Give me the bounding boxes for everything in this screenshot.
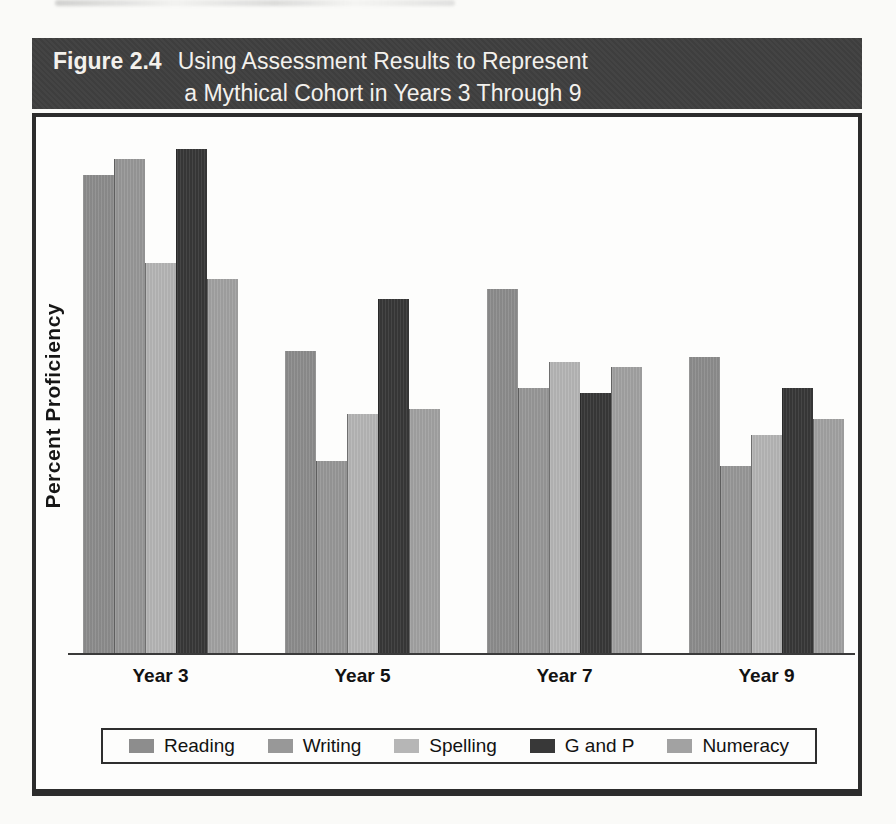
bar-group-year-3 bbox=[83, 133, 238, 653]
bar-spelling-year-7 bbox=[549, 362, 580, 653]
legend-item-spelling: Spelling bbox=[394, 735, 497, 757]
figure-2-4: Figure 2.4 Using Assessment Results to R… bbox=[32, 38, 862, 796]
bar-writing-year-7 bbox=[518, 388, 549, 653]
bar-writing-year-9 bbox=[720, 466, 751, 653]
figure-number-label: Figure 2.4 bbox=[53, 45, 162, 77]
bar-reading-year-3 bbox=[83, 175, 114, 653]
bar-numeracy-year-5 bbox=[409, 409, 440, 653]
legend-label-spelling: Spelling bbox=[429, 735, 497, 757]
plot-area bbox=[68, 133, 855, 653]
bar-group-year-7 bbox=[487, 133, 642, 653]
bar-writing-year-3 bbox=[114, 159, 145, 653]
bar-groups bbox=[68, 133, 855, 653]
legend-item-g-and-p: G and P bbox=[530, 735, 635, 757]
bar-reading-year-9 bbox=[689, 357, 720, 653]
bar-group-year-5 bbox=[285, 133, 440, 653]
figure-title: Using Assessment Results to Represent a … bbox=[178, 45, 588, 109]
y-axis-title: Percent Proficiency bbox=[41, 303, 65, 509]
legend-item-numeracy: Numeracy bbox=[667, 735, 789, 757]
bar-reading-year-5 bbox=[285, 351, 316, 653]
legend-swatch-numeracy bbox=[667, 739, 692, 753]
x-axis-label-year-9: Year 9 bbox=[689, 665, 844, 687]
bar-numeracy-year-3 bbox=[207, 279, 238, 653]
bar-g-and-p-year-9 bbox=[782, 388, 813, 653]
legend-swatch-writing bbox=[268, 739, 293, 753]
chart-legend: ReadingWritingSpellingG and PNumeracy bbox=[101, 728, 817, 764]
legend-swatch-spelling bbox=[394, 739, 419, 753]
plot-region: Year 3Year 5Year 7Year 9 bbox=[68, 133, 855, 687]
chart-box: Percent Proficiency Year 3Year 5Year 7Ye… bbox=[32, 113, 862, 796]
legend-swatch-reading bbox=[129, 739, 154, 753]
bar-group-year-9 bbox=[689, 133, 844, 653]
bar-g-and-p-year-7 bbox=[580, 393, 611, 653]
x-axis-label-year-7: Year 7 bbox=[487, 665, 642, 687]
bar-spelling-year-3 bbox=[145, 263, 176, 653]
scan-artifact bbox=[55, 0, 455, 6]
x-axis-label-year-3: Year 3 bbox=[83, 665, 238, 687]
legend-label-reading: Reading bbox=[164, 735, 235, 757]
legend-swatch-g-and-p bbox=[530, 739, 555, 753]
legend-item-writing: Writing bbox=[268, 735, 362, 757]
bar-writing-year-5 bbox=[316, 461, 347, 653]
bar-numeracy-year-7 bbox=[611, 367, 642, 653]
legend-label-numeracy: Numeracy bbox=[702, 735, 789, 757]
bar-g-and-p-year-3 bbox=[176, 149, 207, 653]
legend-label-g-and-p: G and P bbox=[565, 735, 635, 757]
x-axis-line bbox=[68, 653, 855, 655]
bar-spelling-year-9 bbox=[751, 435, 782, 653]
x-axis-labels: Year 3Year 5Year 7Year 9 bbox=[68, 665, 855, 687]
bar-reading-year-7 bbox=[487, 289, 518, 653]
figure-title-line1: Using Assessment Results to Represent bbox=[178, 45, 588, 77]
legend-item-reading: Reading bbox=[129, 735, 235, 757]
bar-g-and-p-year-5 bbox=[378, 299, 409, 653]
x-axis-label-year-5: Year 5 bbox=[285, 665, 440, 687]
bar-numeracy-year-9 bbox=[813, 419, 844, 653]
figure-title-line2: a Mythical Cohort in Years 3 Through 9 bbox=[178, 77, 588, 109]
figure-header: Figure 2.4 Using Assessment Results to R… bbox=[32, 38, 862, 109]
legend-label-writing: Writing bbox=[303, 735, 362, 757]
bar-spelling-year-5 bbox=[347, 414, 378, 653]
